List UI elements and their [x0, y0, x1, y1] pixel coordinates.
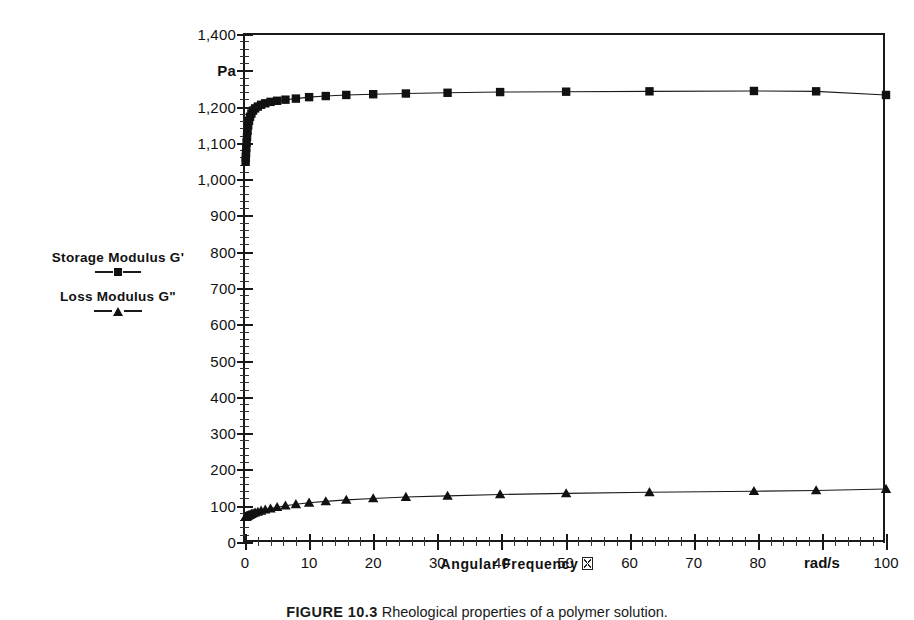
square-marker-icon [369, 90, 377, 98]
legend-line-icon [94, 310, 112, 312]
x-tick-major [886, 534, 888, 550]
y-tick-label: 300 [210, 425, 236, 442]
figure-caption-text: Rheological properties of a polymer solu… [382, 604, 668, 620]
square-marker-icon [322, 92, 330, 100]
square-marker-icon [645, 87, 653, 95]
legend-line-icon [124, 310, 142, 312]
figure-caption-number: FIGURE 10.3 [286, 604, 377, 620]
y-tick-label: 100 [210, 497, 236, 514]
y-tick-label: 200 [210, 461, 236, 478]
legend-item-loss-modulus[interactable]: Loss Modulus G" [28, 289, 208, 316]
legend-line-icon [123, 271, 141, 273]
legend-line-icon [95, 271, 113, 273]
y-tick-label: 1,200 [197, 98, 236, 115]
y-tick-label: 600 [210, 316, 236, 333]
square-marker-icon [402, 89, 410, 97]
triangle-marker-icon [749, 486, 759, 495]
legend-label-storage-modulus: Storage Modulus G' [28, 250, 208, 265]
legend-key-storage-modulus [28, 267, 208, 277]
square-marker-icon [562, 87, 570, 95]
y-tick-label: 1,400 [197, 26, 236, 43]
square-marker-icon [273, 97, 281, 105]
triangle-marker-icon [881, 484, 891, 493]
square-marker-icon [812, 87, 820, 95]
square-marker-icon [305, 93, 313, 101]
triangle-marker-icon [644, 487, 654, 496]
triangle-marker-icon [401, 492, 411, 501]
square-marker-icon [281, 95, 289, 103]
x-axis-title-text: Angular Frequency [441, 556, 579, 572]
y-tick-label: 0 [227, 534, 236, 551]
plot-area: 01002003004005006007008009001,0001,1001,… [243, 34, 884, 542]
y-tick-label: 1,100 [197, 134, 236, 151]
legend-item-storage-modulus[interactable]: Storage Modulus G' [28, 250, 208, 277]
y-tick-label: 400 [210, 388, 236, 405]
x-axis-title: Angular Frequency [0, 556, 914, 572]
data-series-layer [245, 34, 886, 542]
y-tick-label: 900 [210, 207, 236, 224]
y-tick-label: 500 [210, 352, 236, 369]
square-marker-icon [114, 268, 122, 276]
y-tick-label: Pa [217, 62, 236, 79]
legend-key-loss-modulus [28, 306, 208, 316]
figure-caption: FIGURE 10.3 Rheological properties of a … [0, 604, 914, 620]
y-tick-label: 800 [210, 243, 236, 260]
y-tick-label: 1,000 [197, 171, 236, 188]
triangle-marker-icon [811, 485, 821, 494]
square-marker-icon [443, 89, 451, 97]
square-marker-icon [292, 94, 300, 102]
legend-label-loss-modulus: Loss Modulus G" [28, 289, 208, 304]
triangle-marker-icon [495, 489, 505, 498]
square-marker-icon [496, 88, 504, 96]
series-storage-modulus [241, 87, 890, 166]
square-marker-icon [750, 87, 758, 95]
legend: Storage Modulus G' Loss Modulus G" [28, 250, 208, 328]
series-line [246, 91, 886, 162]
y-tick-label: 700 [210, 280, 236, 297]
square-marker-icon [882, 91, 890, 99]
triangle-marker-icon [561, 488, 571, 497]
triangle-marker-icon [113, 307, 123, 316]
omega-missing-glyph-icon [582, 557, 593, 570]
square-marker-icon [342, 91, 350, 99]
series-loss-modulus [240, 484, 891, 521]
